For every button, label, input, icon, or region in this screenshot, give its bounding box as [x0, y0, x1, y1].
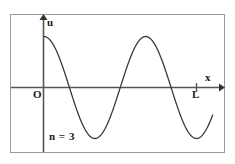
figure-border — [11, 15, 225, 153]
length-label: L — [192, 89, 199, 100]
figure-container: u x O L n = 3 — [0, 0, 235, 164]
origin-label: O — [33, 89, 42, 100]
mode-number-label: n = 3 — [49, 131, 75, 142]
y-axis-label: u — [47, 17, 53, 28]
standing-wave-figure — [0, 0, 235, 164]
x-axis-label: x — [205, 72, 211, 83]
